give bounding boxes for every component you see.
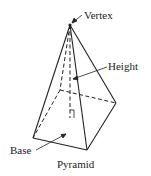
height-arrowhead-icon bbox=[73, 76, 78, 80]
vertex-point bbox=[68, 23, 71, 26]
height-label: Height bbox=[108, 60, 138, 72]
vertex-label: Vertex bbox=[84, 9, 113, 21]
edge-apex-front-right bbox=[70, 25, 87, 150]
base-leader bbox=[36, 134, 66, 150]
pyramid-diagram: Vertex Height Base Pyramid bbox=[0, 0, 151, 176]
edge-right bbox=[87, 103, 116, 150]
vertex-arrowhead-icon bbox=[72, 18, 77, 23]
edge-front bbox=[33, 138, 87, 150]
diagram-title: Pyramid bbox=[57, 158, 95, 170]
right-angle-mark bbox=[70, 110, 74, 118]
edge-apex-front-left bbox=[33, 25, 70, 138]
hidden-edge-back-left bbox=[60, 90, 116, 103]
height-leader bbox=[73, 67, 107, 79]
base-label: Base bbox=[10, 144, 32, 156]
base-arrowhead-icon bbox=[61, 134, 66, 138]
hidden-edge-apex-back bbox=[60, 25, 70, 90]
